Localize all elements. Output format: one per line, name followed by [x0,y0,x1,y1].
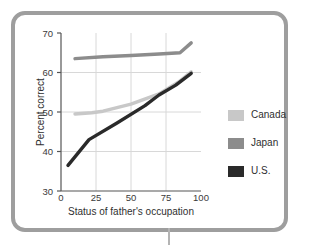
legend-label-canada: Canada [251,110,286,120]
y-tick-label: 60 [42,67,53,78]
y-tick-label: 30 [42,186,53,197]
x-tick-label: 100 [193,192,209,203]
x-tick-label: 0 [58,192,63,203]
y-tick-label: 40 [42,146,53,157]
legend-swatch-us [228,166,244,177]
x-axis-title: Status of father's occupation [68,206,194,217]
y-tick-label: 70 [42,28,53,39]
x-tick-label: 25 [91,192,102,203]
series-lines [68,43,191,165]
bottom-tick-mark [168,228,170,245]
legend-swatch-canada [228,110,244,121]
chart-legend: Canada Japan U.S. [228,104,290,188]
y-axis-title: Percent correct [35,78,46,146]
x-tick-label: 75 [161,192,172,203]
series-line-japan [75,43,191,59]
legend-swatch-japan [228,138,244,149]
legend-item-japan: Japan [228,132,290,154]
legend-item-canada: Canada [228,104,290,126]
x-tick-labels: 0 25 50 75 100 [58,192,209,203]
legend-item-us: U.S. [228,160,290,182]
legend-label-japan: Japan [251,138,278,148]
legend-label-us: U.S. [251,166,270,176]
x-tick-label: 50 [126,192,137,203]
series-line-canada [75,72,191,114]
